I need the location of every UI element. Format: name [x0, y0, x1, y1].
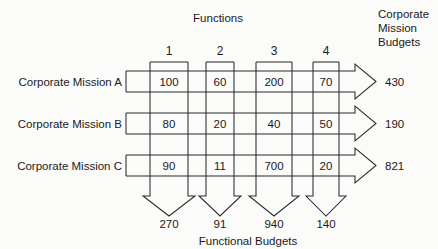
cell-b1: 80 — [163, 118, 176, 130]
top-title: Functions — [193, 12, 243, 24]
cell-a3: 200 — [264, 76, 283, 88]
cell-c3: 700 — [264, 160, 283, 172]
cell-c1: 90 — [163, 160, 176, 172]
row-label-c: Corporate Mission C — [17, 160, 122, 172]
cell-a2: 60 — [214, 76, 227, 88]
row-label-b: Corporate Mission B — [18, 118, 123, 130]
column-total-2: 91 — [214, 218, 227, 230]
cell-a1: 100 — [159, 76, 178, 88]
row-total-b: 190 — [385, 118, 404, 130]
row-label-a: Corporate Mission A — [18, 76, 122, 88]
column-header-1: 1 — [166, 44, 173, 58]
matrix-diagram: Functions Corporate Mission Budgets 1 2 … — [0, 0, 438, 249]
cell-c2: 11 — [214, 160, 226, 172]
column-total-3: 940 — [264, 218, 283, 230]
cell-a4: 70 — [320, 76, 333, 88]
column-header-4: 4 — [323, 44, 330, 58]
row-total-a: 430 — [385, 76, 404, 88]
cell-b2: 20 — [214, 118, 227, 130]
cell-b3: 40 — [268, 118, 281, 130]
right-title-line-1: Corporate — [378, 8, 429, 20]
cell-b4: 50 — [320, 118, 333, 130]
column-header-3: 3 — [271, 44, 278, 58]
cell-c4: 20 — [320, 160, 333, 172]
bottom-title: Functional Budgets — [199, 235, 298, 247]
diagram-canvas: Functions Corporate Mission Budgets 1 2 … — [0, 0, 438, 249]
column-total-1: 270 — [159, 218, 178, 230]
column-total-4: 140 — [316, 218, 335, 230]
right-title-line-3: Budgets — [378, 36, 420, 48]
column-header-2: 2 — [217, 44, 224, 58]
row-total-c: 821 — [385, 160, 404, 172]
right-title-line-2: Mission — [378, 22, 417, 34]
